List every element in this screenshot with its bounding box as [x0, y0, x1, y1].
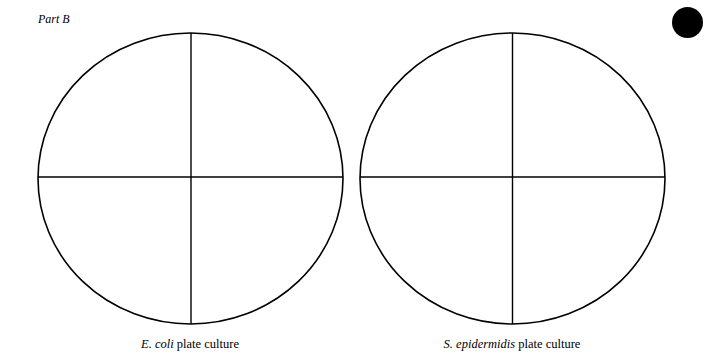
plate-ecoli — [38, 33, 343, 324]
caption-sepidermidis: S. epidermidis plate culture — [444, 337, 581, 352]
caption-suffix: plate culture — [515, 337, 580, 351]
caption-species: E. coli — [141, 337, 174, 351]
plates-drawing — [0, 0, 716, 355]
plate-sepidermidis — [360, 33, 665, 324]
caption-ecoli: E. coli plate culture — [141, 337, 239, 352]
caption-suffix: plate culture — [174, 337, 239, 351]
caption-species: S. epidermidis — [444, 337, 516, 351]
